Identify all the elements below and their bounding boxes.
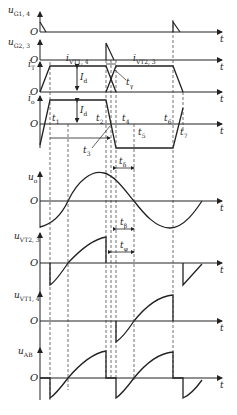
origin-label: O [30,373,38,383]
label-tbeta: tβ [120,218,127,229]
time-label: t [220,324,224,333]
origin-label: O [30,258,38,268]
label-uVT14: uVT1, 4 [14,291,40,302]
time-label: t [220,266,224,275]
label-Id: Id [80,73,87,84]
origin-label: O [30,27,38,37]
label-tdelta: tδ [119,157,126,168]
origin-label: O [30,119,38,129]
label-t1: t1 [52,114,59,125]
time-label: t [220,381,224,390]
label-t5: t5 [138,128,145,139]
label-t4: t4 [122,114,129,125]
origin-label: O [30,196,38,206]
label-iVT14: iVT1, 4 [66,54,89,65]
time-label: t [220,63,224,72]
label-io: io [28,94,35,105]
label-uVT23: uVT2, 3 [14,232,40,243]
label-tgamma: tγ [126,78,133,89]
label-t6: t6 [164,114,171,125]
label-uo: uo [28,173,37,184]
time-label: t [220,35,224,44]
label-t2: t2 [96,114,103,125]
label-Id: Id [80,106,87,117]
label-t7: t7 [180,128,187,139]
time-label: t [220,95,224,104]
label-iVT23: iVT2, 3 [133,54,156,65]
time-label: t [220,127,224,136]
time-label: t [220,204,224,213]
label-t3: t3 [83,146,90,157]
label-uAB: uAB [18,347,33,358]
label-iT: iT [28,60,35,71]
label-uG14: uG1, 4 [8,6,30,17]
label-tphi: tφ [120,241,128,252]
origin-label: O [30,316,38,326]
label-uG23: uG2, 3 [8,38,30,49]
